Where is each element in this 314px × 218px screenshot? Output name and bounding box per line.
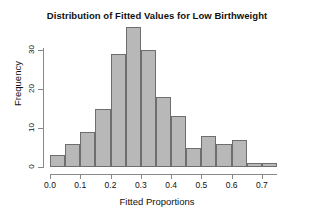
- histogram-bar: [171, 116, 186, 167]
- x-axis-title: Fitted Proportions: [0, 196, 314, 207]
- x-axis-tick: [50, 174, 51, 179]
- y-axis-tick: [38, 89, 43, 90]
- x-axis-tick: [80, 174, 81, 179]
- histogram-bar: [80, 132, 95, 167]
- histogram-bar: [186, 148, 201, 168]
- x-axis-tick: [171, 174, 172, 179]
- x-axis-tick-label: 0.2: [99, 180, 123, 190]
- x-axis-tick-label: 0.4: [159, 180, 183, 190]
- x-axis-tick-label: 0.1: [68, 180, 92, 190]
- y-axis-tick: [38, 50, 43, 51]
- x-axis-tick-label: 0.6: [220, 180, 244, 190]
- x-axis-line: [50, 174, 277, 175]
- x-axis-tick-label: 0.0: [38, 180, 62, 190]
- histogram-bar: [65, 144, 80, 167]
- histogram-bar: [232, 140, 247, 167]
- y-axis-tick: [38, 167, 43, 168]
- x-axis-tick-label: 0.7: [250, 180, 274, 190]
- y-axis-tick-label: 30: [27, 44, 36, 56]
- histogram-chart: Distribution of Fitted Values for Low Bi…: [0, 0, 314, 218]
- x-axis-tick: [232, 174, 233, 179]
- histogram-bars: [44, 20, 300, 167]
- x-axis-tick: [141, 174, 142, 179]
- histogram-bar: [126, 27, 141, 167]
- x-axis-tick-label: 0.5: [189, 180, 213, 190]
- y-axis-tick-label: 0: [27, 161, 36, 173]
- histogram-bar: [111, 54, 126, 167]
- x-axis-tick: [111, 174, 112, 179]
- histogram-bar: [141, 50, 156, 167]
- x-axis-tick-label: 0.3: [129, 180, 153, 190]
- y-axis-title: Frequency: [12, 39, 23, 129]
- histogram-bar: [201, 136, 216, 167]
- histogram-bar: [262, 163, 277, 167]
- histogram-bar: [50, 155, 65, 167]
- x-axis-tick: [262, 174, 263, 179]
- y-axis-tick-label: 20: [27, 83, 36, 95]
- y-axis-tick: [38, 128, 43, 129]
- histogram-bar: [247, 163, 262, 167]
- plot-area: [44, 20, 300, 167]
- x-axis-tick: [201, 174, 202, 179]
- y-axis-tick-label: 10: [27, 122, 36, 134]
- histogram-bar: [156, 97, 171, 167]
- histogram-bar: [95, 109, 110, 168]
- histogram-bar: [216, 144, 231, 167]
